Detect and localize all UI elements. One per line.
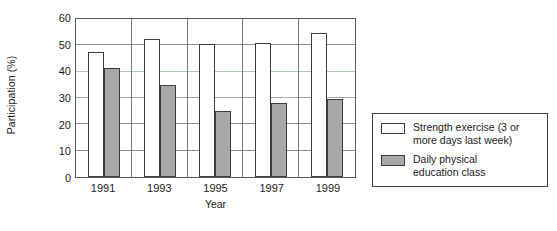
bar[interactable] — [160, 85, 176, 177]
y-axis-tick-label: 0 — [41, 173, 71, 184]
x-axis-tick-label: 1995 — [187, 180, 243, 196]
y-axis-tick-label: 20 — [41, 119, 71, 130]
bar[interactable] — [199, 44, 215, 177]
y-axis-tick-label: 10 — [41, 146, 71, 157]
x-axis-tick-label: 1999 — [300, 180, 356, 196]
x-axis-title: Year — [75, 198, 356, 210]
legend-item[interactable]: Strength exercise (3 ormore days last we… — [381, 121, 539, 147]
bar[interactable] — [88, 52, 104, 177]
y-axis-tick-label: 30 — [41, 93, 71, 104]
bar[interactable] — [144, 39, 160, 177]
legend-item[interactable]: Daily physicaleducation class — [381, 153, 539, 179]
bar[interactable] — [104, 68, 120, 177]
legend-item-label: Strength exercise (3 ormore days last we… — [413, 121, 519, 147]
y-axis-title: Participation (%) — [2, 0, 20, 190]
x-axis-tick-label: 1993 — [131, 180, 187, 196]
bar-group — [188, 19, 244, 177]
legend-item-label: Daily physicaleducation class — [413, 153, 485, 179]
y-axis-tick-label: 60 — [41, 13, 71, 24]
y-axis-tick-labels: 0102030405060 — [41, 18, 71, 178]
chart-legend: Strength exercise (3 ormore days last we… — [372, 113, 548, 187]
bar-group — [243, 19, 299, 177]
bar-chart-figure: Participation (%) 0102030405060 19911993… — [0, 0, 557, 231]
bar[interactable] — [311, 33, 327, 177]
y-axis-tick-label: 40 — [41, 66, 71, 77]
bar[interactable] — [255, 43, 271, 177]
bar[interactable] — [327, 99, 343, 177]
plot-inner — [76, 19, 355, 177]
x-axis-tick-labels: 19911993199519971999 — [75, 180, 356, 196]
plot-area — [75, 18, 356, 178]
x-axis-tick-label: 1991 — [75, 180, 131, 196]
bar[interactable] — [215, 111, 231, 177]
y-axis-title-text: Participation (%) — [5, 56, 17, 135]
legend-swatch-icon — [381, 155, 405, 166]
legend-swatch-icon — [381, 123, 405, 134]
bar-group — [132, 19, 188, 177]
y-axis-tick-label: 50 — [41, 39, 71, 50]
bar-group — [299, 19, 355, 177]
bar-groups — [76, 19, 355, 177]
x-axis-tick-label: 1997 — [244, 180, 300, 196]
bar-group — [76, 19, 132, 177]
bar[interactable] — [271, 103, 287, 177]
